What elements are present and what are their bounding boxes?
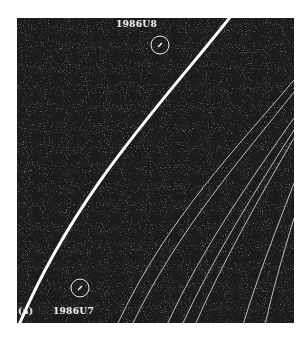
moon-1986U8-label: 1986U8 (116, 19, 157, 29)
ring-photograph: 1986U8 1986U7 (a) (17, 18, 294, 323)
moon-1986U7-label: 1986U7 (53, 306, 94, 316)
panel-label: (a) (18, 306, 33, 316)
ring-field (17, 18, 294, 323)
